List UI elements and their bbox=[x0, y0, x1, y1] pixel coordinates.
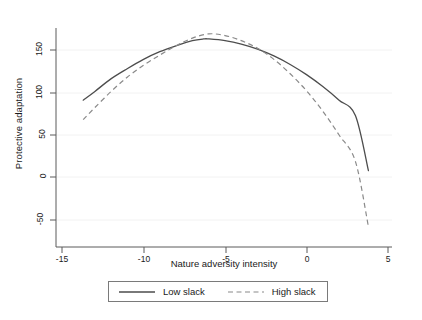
legend-label-low-slack: Low slack bbox=[163, 286, 205, 297]
legend-item-low-slack: Low slack bbox=[118, 286, 205, 297]
legend-swatch-dashed-icon bbox=[227, 287, 265, 297]
y-axis-title: Protective adaptation bbox=[8, 0, 30, 247]
chart-legend: Low slack High slack bbox=[108, 281, 328, 302]
y-axis-ticks bbox=[50, 50, 56, 220]
plot-canvas bbox=[0, 0, 422, 320]
gridlines bbox=[56, 50, 392, 220]
legend-item-high-slack: High slack bbox=[227, 286, 316, 297]
legend-label-high-slack: High slack bbox=[272, 286, 316, 297]
axis-lines bbox=[56, 28, 392, 247]
y-tick-label-150: 150 bbox=[20, 44, 46, 54]
x-axis-ticks bbox=[62, 247, 388, 253]
y-tick-label-0: 0 bbox=[20, 171, 46, 181]
series-line-high-slack bbox=[83, 34, 368, 227]
y-tick-label-100: 100 bbox=[20, 87, 46, 97]
series-line-low-slack bbox=[83, 39, 368, 171]
y-tick-label-neg50: -50 bbox=[20, 214, 46, 224]
x-axis-title: Nature adversity intensity bbox=[56, 258, 392, 269]
y-tick-label-50: 50 bbox=[20, 129, 46, 139]
legend-swatch-solid-icon bbox=[118, 287, 156, 297]
chart-figure: Protective adaptation 150 100 50 0 -50 -… bbox=[0, 0, 422, 320]
